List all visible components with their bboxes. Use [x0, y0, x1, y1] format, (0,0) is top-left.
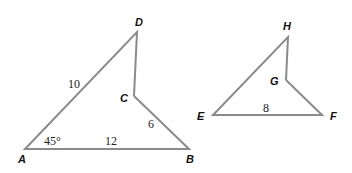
figure-efgh: H G E F 8	[197, 20, 337, 122]
side-cb-length: 6	[148, 117, 154, 131]
vertex-label-f: F	[330, 110, 337, 122]
vertex-label-d: D	[135, 16, 143, 28]
vertex-label-g: G	[270, 75, 279, 87]
vertex-label-h: H	[283, 20, 292, 32]
figure-abcd: D C A B 10 45° 12 6	[17, 16, 194, 165]
side-ad-length: 10	[68, 77, 80, 91]
vertex-label-e: E	[197, 110, 205, 122]
vertex-label-c: C	[120, 92, 129, 104]
side-ef-length: 8	[263, 101, 269, 115]
side-ab-length: 12	[105, 134, 117, 148]
quadrilateral-abcd	[25, 32, 189, 149]
similar-figures-diagram: D C A B 10 45° 12 6 H G E F 8	[0, 0, 352, 173]
angle-a-measure: 45°	[44, 134, 61, 148]
vertex-label-b: B	[186, 153, 194, 165]
vertex-label-a: A	[17, 153, 26, 165]
